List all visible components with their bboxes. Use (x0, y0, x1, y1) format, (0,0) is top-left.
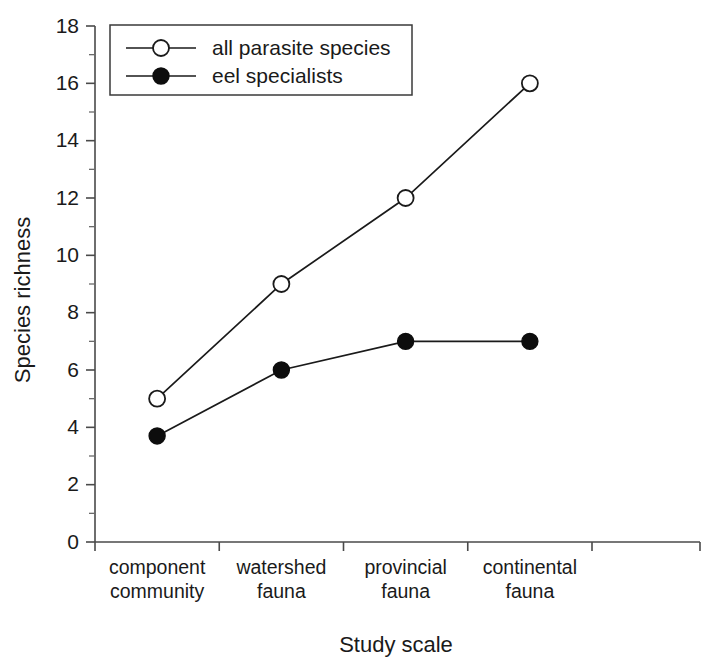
y-tick-label: 0 (67, 530, 79, 553)
y-tick-label: 16 (56, 71, 79, 94)
x-tick-label: continentalfauna (483, 556, 577, 602)
y-tick-label: 14 (56, 128, 80, 151)
legend-label-series-2: eel specialists (212, 64, 343, 87)
data-point-2-4 (522, 333, 538, 349)
chart-figure: 024681012141618 componentcommunitywaters… (0, 0, 711, 670)
data-point-1-2 (273, 276, 289, 292)
x-tick-label: provincialfauna (364, 556, 446, 602)
y-axis-title: Species richness (10, 217, 35, 383)
line-chart-plot: 024681012141618 componentcommunitywaters… (0, 0, 711, 670)
series-line-1 (157, 83, 530, 398)
y-tick-label: 12 (56, 186, 79, 209)
legend: all parasite species eel specialists (110, 25, 412, 95)
data-point-2-1 (149, 428, 165, 444)
x-tick-label: watershedfauna (235, 556, 326, 602)
y-tick-label: 4 (67, 415, 79, 438)
data-point-1-1 (149, 391, 165, 407)
data-point-2-2 (273, 362, 289, 378)
y-axis-tick-labels: 024681012141618 (56, 14, 80, 553)
x-axis-tick-labels: componentcommunitywatershedfaunaprovinci… (109, 556, 577, 602)
x-axis-ticks (95, 542, 700, 551)
data-point-1-4 (522, 75, 538, 91)
legend-label-series-1: all parasite species (212, 36, 391, 59)
y-tick-label: 18 (56, 14, 79, 37)
y-tick-label: 2 (67, 472, 79, 495)
legend-marker-filled-circle (153, 68, 169, 84)
legend-marker-open-circle (153, 40, 169, 56)
data-point-2-3 (398, 333, 414, 349)
data-point-1-3 (398, 190, 414, 206)
y-tick-label: 10 (56, 243, 79, 266)
x-tick-label: componentcommunity (109, 556, 206, 602)
y-tick-label: 8 (67, 300, 79, 323)
y-tick-label: 6 (67, 358, 79, 381)
x-axis-title: Study scale (339, 632, 453, 657)
y-axis-ticks (86, 26, 95, 542)
series-line-2 (157, 341, 530, 436)
series-lines (157, 83, 530, 436)
